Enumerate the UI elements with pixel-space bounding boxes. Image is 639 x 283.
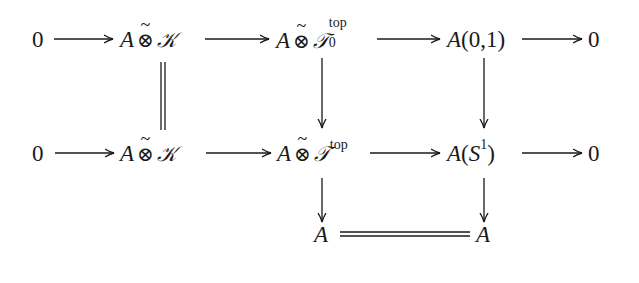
a-symbol: A <box>447 27 461 52</box>
zero-label: 0 <box>588 27 600 52</box>
node-r1-a-tensor-t0top: A~⊗𝒯top0 <box>276 28 355 52</box>
node-r2-as1: A(S1) <box>447 142 495 165</box>
tilde-accent: ~ <box>141 130 151 148</box>
sup-sub-group: top0 <box>329 28 355 48</box>
tilde-accent: ~ <box>298 130 308 148</box>
node-r2-zero-left: 0 <box>32 142 44 165</box>
k-script-symbol: 𝒦 <box>157 28 177 52</box>
right-paren: ) <box>487 141 495 166</box>
a01-args: (0,1) <box>461 27 505 52</box>
node-r1-a01: A(0,1) <box>447 28 505 51</box>
node-r1-zero-left: 0 <box>32 28 44 51</box>
s-symbol: S <box>469 141 481 166</box>
a-symbol: A <box>314 222 328 247</box>
zero-label: 0 <box>32 27 44 52</box>
tilde-otimes-icon: ~⊗ <box>137 30 154 50</box>
tilde-accent: ~ <box>141 16 151 34</box>
zero-label: 0 <box>588 141 600 166</box>
t-script-symbol: 𝒯 <box>314 142 330 166</box>
a-symbol: A <box>120 27 134 52</box>
k-script-symbol: 𝒦 <box>157 142 177 166</box>
node-r1-a-tensor-k: A~⊗𝒦 <box>120 28 177 51</box>
node-r2-a-tensor-k: A~⊗𝒦 <box>120 142 177 165</box>
node-r3-a-left: A <box>314 223 328 246</box>
node-r3-a-right: A <box>476 223 490 246</box>
left-paren: ( <box>461 141 469 166</box>
a-symbol: A <box>276 28 290 53</box>
a-symbol: A <box>120 141 134 166</box>
a-symbol: A <box>277 141 291 166</box>
tilde-otimes-icon: ~⊗ <box>294 144 311 164</box>
tilde-accent: ~ <box>297 17 307 35</box>
a-symbol: A <box>476 222 490 247</box>
zero-label: 0 <box>32 141 44 166</box>
subscript-zero: 0 <box>329 36 336 50</box>
superscript-top: top <box>330 137 348 152</box>
node-r2-zero-right: 0 <box>588 142 600 165</box>
node-r1-zero-right: 0 <box>588 28 600 51</box>
superscript-top: top <box>329 16 347 30</box>
tilde-otimes-icon: ~⊗ <box>137 144 154 164</box>
superscript-one: 1 <box>480 137 487 152</box>
t-script-symbol: 𝒯 <box>313 29 329 53</box>
node-r2-a-tensor-ttop: A~⊗𝒯top <box>277 142 348 165</box>
a-symbol: A <box>447 141 461 166</box>
tilde-otimes-icon: ~⊗ <box>293 31 310 51</box>
